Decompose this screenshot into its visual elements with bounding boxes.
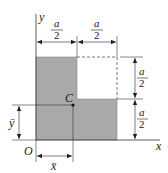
centroid-label: C bbox=[65, 91, 74, 105]
fraction-denominator: 2 bbox=[139, 77, 145, 89]
removed-square-outline bbox=[77, 57, 117, 99]
x-bar-label: x̄ bbox=[50, 159, 57, 173]
fraction-denominator: 2 bbox=[94, 29, 100, 41]
fraction-denominator: 2 bbox=[139, 118, 145, 130]
l-shaped-area bbox=[36, 57, 117, 140]
fraction-numerator: a bbox=[139, 65, 145, 77]
y-bar-label: ȳ bbox=[8, 116, 15, 130]
fraction-numerator: a bbox=[94, 17, 100, 29]
fraction-numerator: a bbox=[54, 17, 60, 29]
origin-label: O bbox=[24, 144, 33, 158]
x-axis-label: x bbox=[155, 139, 162, 153]
fraction-numerator: a bbox=[139, 106, 145, 118]
y-axis-label: y bbox=[38, 10, 45, 24]
centroid-diagram: y x O a 2 a 2 a 2 a 2 C ȳ x̄ bbox=[0, 0, 168, 173]
fraction-denominator: 2 bbox=[54, 29, 60, 41]
